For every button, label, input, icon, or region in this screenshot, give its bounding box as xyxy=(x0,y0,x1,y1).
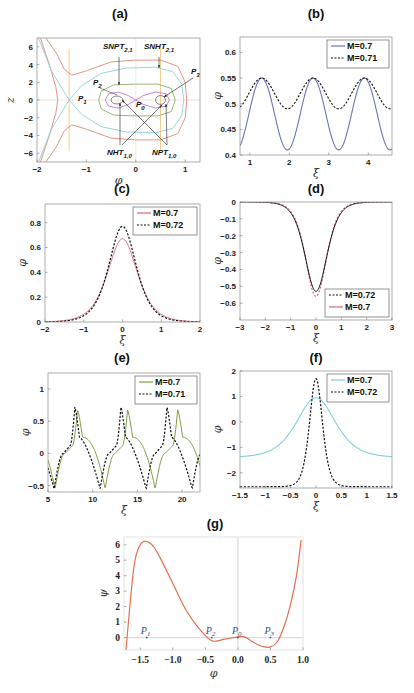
fixed-point-label: P0 xyxy=(231,625,242,638)
panel-title: (e) xyxy=(114,350,130,365)
y-tick-label: 2 xyxy=(29,78,34,87)
x-tick-label: 20 xyxy=(178,495,187,504)
x-tick-label: 1 xyxy=(364,491,369,500)
legend: M=0.7M=0.71 xyxy=(135,376,197,404)
legend-entry: M=0.7 xyxy=(347,375,372,385)
x-tick-label: −0.5 xyxy=(197,655,215,665)
panel-title: (g) xyxy=(207,516,224,531)
x-tick-label: −1 xyxy=(286,323,296,332)
y-tick-label: −0.4 xyxy=(220,265,236,274)
series-line xyxy=(240,398,392,457)
x-tick-label: 0.5 xyxy=(265,655,277,665)
plot-area xyxy=(240,202,392,296)
plot-area xyxy=(48,407,200,489)
x-tick-label: 1 xyxy=(339,323,344,332)
y-tick-label: 0.6 xyxy=(225,48,237,57)
x-axis-label: ξ xyxy=(313,500,320,513)
x-tick-label: 1.5 xyxy=(386,491,398,500)
annotation-label: P1 xyxy=(78,94,87,105)
y-tick-label: 4 xyxy=(29,61,34,70)
panel-title: (a) xyxy=(112,6,128,21)
series-line xyxy=(240,202,392,291)
y-axis-label: φ xyxy=(16,259,29,267)
legend-entry: M=0.7 xyxy=(153,208,178,218)
plot-area xyxy=(45,226,200,321)
x-tick-label: 0 xyxy=(120,325,125,334)
panel-d: (d)−3−2−101230−0.1−0.2−0.3−0.4−0.5−0.6ξφ… xyxy=(211,181,395,345)
legend-entry: M=0.72 xyxy=(345,290,375,300)
legend-entry: M=0.72 xyxy=(347,387,377,397)
x-tick-label: −1.5 xyxy=(132,655,150,665)
x-tick-label: 1 xyxy=(159,325,164,334)
legend-entry: M=0.71 xyxy=(155,389,185,399)
y-axis-label: z xyxy=(4,97,17,104)
panel-title: (b) xyxy=(308,6,325,21)
legend: M=0.7M=0.72 xyxy=(133,207,197,235)
y-tick-label: −0.2 xyxy=(220,232,236,241)
y-tick-label: 0 xyxy=(29,96,34,105)
x-tick-label: 0.0 xyxy=(232,655,244,665)
series-line xyxy=(45,239,200,322)
x-tick-label: −2 xyxy=(261,323,271,332)
plot-area xyxy=(240,78,392,150)
x-tick-label: 3 xyxy=(390,323,395,332)
y-axis-label: φ xyxy=(19,428,32,436)
y-tick-label: 2 xyxy=(232,367,237,376)
series-line xyxy=(240,202,392,296)
annotation-label: P2 xyxy=(93,78,102,89)
fixed-point-label: P2 xyxy=(205,625,216,638)
series-line xyxy=(45,226,200,321)
legend: M=0.72M=0.7 xyxy=(325,289,389,317)
series-line xyxy=(48,410,200,488)
x-tick-label: 1.0 xyxy=(297,655,309,665)
panel-e: (e)5101520−0.500.51ξφM=0.7M=0.71 xyxy=(19,350,200,517)
y-tick-label: 4 xyxy=(115,571,120,581)
panel-title: (f) xyxy=(310,350,323,365)
annotation-label: P3 xyxy=(191,67,200,78)
y-tick-label: −0.3 xyxy=(220,249,236,258)
y-tick-label: −0.1 xyxy=(220,215,236,224)
y-tick-label: 5 xyxy=(115,555,120,565)
x-tick-label: 15 xyxy=(133,495,142,504)
y-tick-label: −0.5 xyxy=(220,282,236,291)
y-tick-label: 0 xyxy=(37,318,42,327)
y-tick-label: 0.5 xyxy=(33,417,45,426)
y-tick-label: 0 xyxy=(232,418,237,427)
legend-entry: M=0.7 xyxy=(155,377,180,387)
x-axis-label: ξ xyxy=(313,332,320,345)
y-tick-label: −6 xyxy=(24,149,34,158)
y-tick-label: 0.6 xyxy=(30,243,42,252)
x-tick-label: 0.5 xyxy=(336,491,348,500)
y-axis-label: φ xyxy=(211,425,224,433)
x-tick-label: 10 xyxy=(88,495,97,504)
x-tick-label: −3 xyxy=(235,323,245,332)
x-tick-label: −2 xyxy=(32,165,42,174)
annotation-label: NPT1,0 xyxy=(152,148,177,159)
y-tick-label: 0.45 xyxy=(220,125,236,134)
plot-area xyxy=(37,38,200,162)
x-tick-label: −0.5 xyxy=(283,491,299,500)
x-axis-label: ξ xyxy=(313,167,320,180)
x-tick-label: −1 xyxy=(261,491,271,500)
y-tick-label: 0 xyxy=(232,198,237,207)
x-tick-label: 5 xyxy=(46,495,51,504)
y-tick-label: 0.4 xyxy=(225,151,237,160)
y-tick-label: −2 xyxy=(227,469,237,478)
y-tick-label: −1 xyxy=(227,443,237,452)
x-tick-label: 3 xyxy=(327,158,332,167)
x-tick-label: 2 xyxy=(198,325,203,334)
y-tick-label: 0 xyxy=(115,633,120,643)
legend: M=0.7M=0.71 xyxy=(327,40,389,68)
y-tick-label: −2 xyxy=(24,114,34,123)
annotation-label: SNHT2,1 xyxy=(144,42,175,53)
y-tick-label: 1 xyxy=(232,392,237,401)
annotation-label: SNPT2,1 xyxy=(103,42,133,53)
figure-canvas: (a)−2−1016420−2−4−6φzSNPT2,1SNHT2,1P2P3P… xyxy=(0,0,414,693)
series-line xyxy=(240,78,392,150)
x-tick-label: −1 xyxy=(79,325,89,334)
panel-a: (a)−2−1016420−2−4−6φzSNPT2,1SNHT2,1P2P3P… xyxy=(4,6,200,187)
y-tick-label: 2 xyxy=(115,602,120,612)
y-tick-label: −0.6 xyxy=(220,299,236,308)
y-tick-label: 6 xyxy=(29,43,34,52)
y-tick-label: 1 xyxy=(115,617,120,627)
